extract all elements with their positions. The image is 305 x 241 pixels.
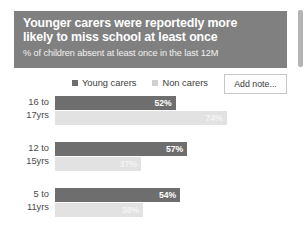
square-swatch-icon bbox=[72, 80, 78, 86]
category-label-12-to-15yrs: 12 to 15yrs bbox=[14, 142, 49, 168]
legend-label-non-carers: Non carers bbox=[162, 78, 207, 88]
category-label-line-2: 17yrs bbox=[14, 109, 49, 122]
bar-non-carers-12-to-15yrs[interactable]: 37% bbox=[55, 157, 141, 171]
bar-value-non-carers-5-to-11yrs: 38% bbox=[122, 205, 143, 215]
category-label-5-to-11yrs: 5 to 11yrs bbox=[14, 188, 49, 214]
bar-non-carers-16-to-17yrs[interactable]: 74% bbox=[55, 111, 227, 125]
legend-row: Young carers Non carers Add note... bbox=[14, 74, 287, 96]
bar-young-carers-12-to-15yrs[interactable]: 57% bbox=[55, 142, 187, 156]
legend-item-non-carers[interactable]: Non carers bbox=[152, 78, 207, 88]
bar-value-young-carers-12-to-15yrs: 57% bbox=[166, 144, 187, 154]
bars-area-16-to-17yrs: 52% 74% bbox=[55, 96, 287, 128]
category-label-line-2: 15yrs bbox=[14, 155, 49, 168]
category-label-line-2: 11yrs bbox=[14, 201, 49, 214]
category-label-16-to-17yrs: 16 to 17yrs bbox=[14, 96, 49, 122]
bar-value-non-carers-12-to-15yrs: 37% bbox=[120, 159, 141, 169]
category-label-line-1: 16 to bbox=[14, 96, 49, 109]
chart-widget: Younger carers were reportedly more like… bbox=[0, 0, 305, 241]
legend-label-young-carers: Young carers bbox=[82, 78, 136, 88]
bar-young-carers-5-to-11yrs[interactable]: 54% bbox=[55, 188, 180, 202]
chart-subtitle: % of children absent at least once in th… bbox=[23, 47, 278, 59]
square-swatch-icon bbox=[152, 80, 158, 86]
bar-group-16-to-17yrs: 16 to 17yrs 52% 74% bbox=[14, 96, 287, 128]
bar-value-young-carers-5-to-11yrs: 54% bbox=[159, 190, 180, 200]
bar-value-young-carers-16-to-17yrs: 52% bbox=[154, 98, 175, 108]
chart-header-banner: Younger carers were reportedly more like… bbox=[14, 11, 287, 68]
category-label-line-1: 5 to bbox=[14, 188, 49, 201]
chart-title: Younger carers were reportedly more like… bbox=[23, 16, 278, 45]
bars-area-5-to-11yrs: 54% 38% bbox=[55, 188, 287, 220]
chart-plot-area: 16 to 17yrs 52% 74% 12 to 15yrs 57% bbox=[14, 96, 287, 236]
bars-area-12-to-15yrs: 57% 37% bbox=[55, 142, 287, 174]
legend-item-young-carers[interactable]: Young carers bbox=[72, 78, 136, 88]
bar-value-non-carers-16-to-17yrs: 74% bbox=[205, 113, 226, 123]
bar-young-carers-16-to-17yrs[interactable]: 52% bbox=[55, 96, 176, 110]
bar-group-5-to-11yrs: 5 to 11yrs 54% 38% bbox=[14, 188, 287, 220]
vertical-scrollbar-thumb[interactable] bbox=[298, 10, 303, 67]
chart-title-line-2: likely to miss school at least once bbox=[23, 30, 278, 44]
chart-legend: Young carers Non carers bbox=[72, 78, 208, 88]
bar-group-12-to-15yrs: 12 to 15yrs 57% 37% bbox=[14, 142, 287, 174]
category-label-line-1: 12 to bbox=[14, 142, 49, 155]
bar-non-carers-5-to-11yrs[interactable]: 38% bbox=[55, 203, 143, 217]
add-note-button[interactable]: Add note... bbox=[224, 74, 287, 94]
chart-title-line-1: Younger carers were reportedly more bbox=[23, 16, 278, 30]
